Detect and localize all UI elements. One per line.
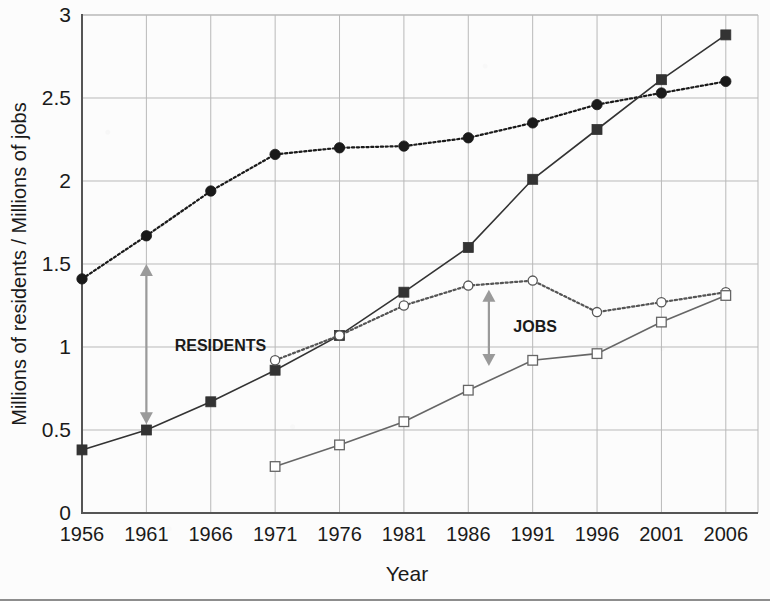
data-point-jobs-upper (528, 276, 537, 285)
y-axis-title: Millions of residents / Millions of jobs (8, 102, 30, 425)
y-tick-label: 3 (59, 3, 71, 26)
data-point-residents-upper (77, 274, 87, 284)
y-tick-label: 0.5 (42, 418, 71, 441)
data-point-jobs-lower (657, 317, 667, 327)
data-point-residents-upper (206, 186, 216, 196)
y-tick-label: 2 (59, 169, 71, 192)
chart-figure: RESIDENTSJOBS 19561961196619711976198119… (0, 0, 770, 601)
filled-circle-marker (463, 133, 473, 143)
data-point-residents-upper (334, 143, 344, 153)
open-square-marker (721, 291, 731, 301)
data-point-jobs-lower (399, 417, 409, 427)
data-point-jobs-lower (592, 349, 602, 359)
data-point-residents-lower (270, 365, 280, 375)
open-square-marker (399, 417, 409, 427)
filled-square-marker (592, 125, 602, 135)
data-point-residents-upper (528, 118, 538, 128)
x-tick-label: 2001 (639, 523, 684, 545)
x-tick-label: 1966 (189, 523, 234, 545)
arrow-head-up-icon (140, 264, 153, 276)
data-point-jobs-upper (271, 356, 280, 365)
data-point-jobs-lower (528, 356, 538, 366)
filled-square-marker (656, 75, 666, 85)
arrow-head-up-icon (482, 290, 495, 302)
x-tick-label: 1986 (446, 523, 491, 545)
x-tick-label: 1976 (317, 523, 362, 545)
filled-square-marker (270, 365, 280, 375)
y-tick-label: 2.5 (42, 86, 71, 109)
filled-circle-marker (399, 141, 409, 151)
filled-circle-marker (77, 274, 87, 284)
data-point-residents-lower (141, 425, 151, 435)
filled-circle-marker (721, 76, 731, 86)
arrow-head-down-icon (482, 354, 495, 366)
open-circle-marker (399, 301, 408, 310)
data-point-residents-upper (656, 88, 666, 98)
data-point-jobs-upper (399, 301, 408, 310)
data-point-residents-lower (206, 397, 216, 407)
annotation-jobs: JOBS (482, 290, 557, 366)
data-point-jobs-upper (335, 331, 344, 340)
filled-circle-marker (656, 88, 666, 98)
y-tick-label: 1.5 (42, 252, 71, 275)
x-tick-label: 1961 (124, 523, 169, 545)
filled-circle-marker (528, 118, 538, 128)
filled-square-marker (141, 425, 151, 435)
data-point-jobs-lower (270, 462, 280, 472)
filled-circle-marker (206, 186, 216, 196)
data-point-jobs-lower (721, 291, 731, 301)
arrow-head-down-icon (140, 412, 153, 424)
data-point-residents-upper (721, 76, 731, 86)
x-tick-label: 1956 (60, 523, 105, 545)
filled-square-marker (399, 287, 409, 297)
open-circle-marker (528, 276, 537, 285)
y-tick-label: 1 (59, 335, 71, 358)
open-square-marker (335, 440, 345, 450)
filled-square-marker (528, 174, 538, 184)
annotations: RESIDENTSJOBS (140, 264, 557, 424)
x-tick-label: 1971 (253, 523, 298, 545)
data-point-residents-lower (399, 287, 409, 297)
filled-square-marker (206, 397, 216, 407)
y-tick-label: 0 (59, 501, 71, 524)
data-point-residents-lower (656, 75, 666, 85)
x-tick-label: 1991 (510, 523, 555, 545)
population-jobs-line-chart: RESIDENTSJOBS 19561961196619711976198119… (0, 0, 770, 601)
open-circle-marker (592, 308, 601, 317)
data-point-residents-lower (77, 445, 87, 455)
data-point-residents-upper (141, 231, 151, 241)
filled-circle-marker (592, 99, 602, 109)
annotation-label-residents: RESIDENTS (175, 337, 267, 354)
data-point-residents-lower (463, 242, 473, 252)
data-point-jobs-upper (592, 308, 601, 317)
x-tick-label: 2006 (704, 523, 749, 545)
data-point-residents-upper (463, 133, 473, 143)
annotation-residents: RESIDENTS (140, 264, 267, 424)
annotation-label-jobs: JOBS (513, 318, 557, 335)
data-point-jobs-upper (464, 281, 473, 290)
x-tick-label: 1996 (575, 523, 620, 545)
data-point-jobs-lower (335, 440, 345, 450)
data-point-residents-lower (528, 174, 538, 184)
filled-circle-marker (141, 231, 151, 241)
open-circle-marker (335, 331, 344, 340)
data-point-residents-upper (399, 141, 409, 151)
open-circle-marker (657, 298, 666, 307)
data-point-jobs-lower (464, 385, 474, 395)
open-square-marker (592, 349, 602, 359)
data-point-residents-lower (592, 125, 602, 135)
x-tick-label: 1981 (382, 523, 427, 545)
open-circle-marker (464, 281, 473, 290)
data-point-residents-upper (270, 149, 280, 159)
tick-labels: 1956196119661971197619811986199119962001… (8, 3, 748, 585)
open-square-marker (270, 462, 280, 472)
open-square-marker (528, 356, 538, 366)
data-point-residents-upper (592, 99, 602, 109)
x-axis-title: Year (386, 562, 428, 585)
open-square-marker (464, 385, 474, 395)
data-point-residents-lower (721, 30, 731, 40)
filled-square-marker (77, 445, 87, 455)
grid-lines (82, 15, 758, 513)
data-point-jobs-upper (657, 298, 666, 307)
filled-circle-marker (334, 143, 344, 153)
